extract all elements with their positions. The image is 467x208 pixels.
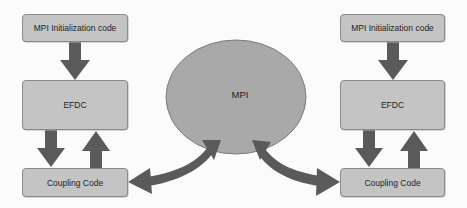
left-mpi-init-label: MPI Initialization code	[34, 23, 117, 33]
right-efdc-box: EFDC	[340, 80, 445, 130]
left-efdc-label: EFDC	[63, 100, 86, 110]
left-mpi-init-box: MPI Initialization code	[22, 14, 128, 42]
arrow-down-icon	[37, 130, 65, 167]
right-mpi-init-box: MPI Initialization code	[340, 14, 445, 42]
right-efdc-label: EFDC	[381, 100, 404, 110]
mpi-label: MPI	[205, 89, 275, 100]
left-efdc-box: EFDC	[22, 80, 128, 130]
arrow-up-icon	[82, 131, 110, 168]
arrow-up-icon	[400, 131, 428, 168]
arrow-down-icon	[355, 130, 383, 167]
arrow-down-icon	[378, 42, 408, 80]
diagram-canvas: MPI Initialization code EFDC Coupling Co…	[0, 0, 467, 208]
left-coupling-label: Coupling Code	[47, 178, 103, 188]
left-coupling-box: Coupling Code	[22, 168, 128, 197]
bidirectional-curved-arrow-icon	[252, 140, 340, 196]
right-coupling-box: Coupling Code	[340, 168, 445, 197]
arrow-down-icon	[60, 42, 90, 80]
right-coupling-label: Coupling Code	[364, 178, 420, 188]
bidirectional-curved-arrow-icon	[128, 140, 221, 194]
right-mpi-init-label: MPI Initialization code	[351, 23, 434, 33]
